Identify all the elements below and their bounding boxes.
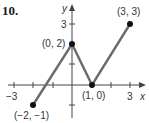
point-3-3 [127,21,133,27]
y-axis-label: y [61,3,68,14]
graph: −3 3 3 x y (−2, −1) (0, 2) (1, 0) (3, 3) [0,0,149,123]
point-label-neg2-neg1: (−2, −1) [14,110,49,121]
point-1-0 [89,82,95,88]
x-axis-label: x [139,91,146,102]
x-axis-arrow-icon [139,82,146,88]
point-label-0-2: (0, 2) [42,38,65,49]
x-tick-label-3: 3 [127,91,133,102]
y-tick-label-3: 3 [61,19,67,30]
point-label-3-3: (3, 3) [117,6,140,17]
point-label-1-0: (1, 0) [82,90,105,101]
point-0-2 [69,41,75,47]
x-tick-label-neg3: −3 [6,91,18,102]
point-neg2-neg1 [30,102,36,108]
y-axis-arrow-icon [69,4,75,11]
